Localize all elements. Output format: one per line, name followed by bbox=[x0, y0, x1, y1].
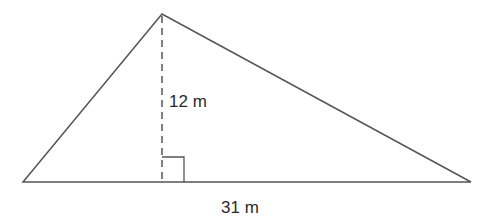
right-angle-marker bbox=[162, 157, 184, 182]
base-label: 31 m bbox=[221, 198, 259, 217]
triangle bbox=[23, 14, 471, 182]
height-label: 12 m bbox=[169, 92, 207, 111]
triangle-diagram: 12 m 31 m bbox=[0, 0, 499, 220]
